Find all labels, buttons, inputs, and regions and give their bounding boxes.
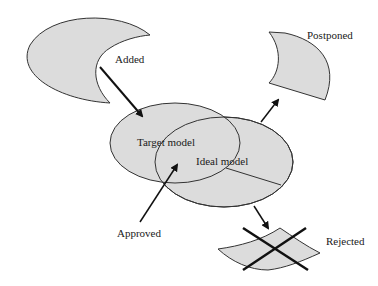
ideal-model-label: Ideal model bbox=[196, 155, 248, 167]
diagram-canvas: Added Postponed Target model Ideal model… bbox=[0, 0, 378, 286]
rejected-label: Rejected bbox=[326, 235, 365, 247]
added-arrow bbox=[100, 67, 142, 116]
approved-label: Approved bbox=[117, 227, 161, 239]
postponed-label: Postponed bbox=[307, 29, 353, 41]
rejected-shape bbox=[218, 228, 320, 270]
target-model-label: Target model bbox=[137, 136, 195, 148]
postponed-arrow bbox=[261, 100, 278, 122]
diagram-svg: Added Postponed Target model Ideal model… bbox=[0, 0, 378, 286]
rejected-arrow bbox=[254, 206, 268, 228]
added-label: Added bbox=[115, 53, 145, 65]
postponed-shape bbox=[269, 32, 330, 100]
